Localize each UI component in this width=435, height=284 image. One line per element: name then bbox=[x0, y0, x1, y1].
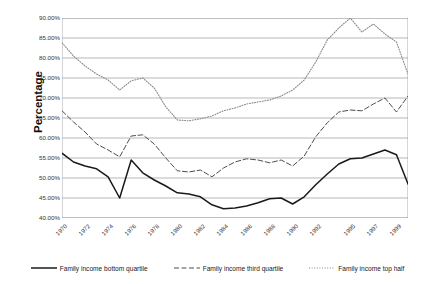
plot-svg bbox=[62, 18, 408, 218]
y-axis-tick-label: 65.00% bbox=[20, 115, 60, 121]
legend-swatch-solid-icon bbox=[31, 264, 57, 272]
y-axis-tick-label: 55.00% bbox=[20, 155, 60, 161]
y-axis-tick-label: 50.00% bbox=[20, 175, 60, 181]
y-axis-tick-label: 40.00% bbox=[20, 215, 60, 221]
legend-item[interactable]: Family income top half bbox=[309, 264, 404, 272]
legend-label: Family income bottom quartile bbox=[60, 265, 148, 272]
legend-label: Family income top half bbox=[338, 265, 404, 272]
y-axis-tick-label: 60.00% bbox=[20, 135, 60, 141]
x-axis: 1970197219741976197819801982198419861988… bbox=[62, 219, 408, 257]
y-axis-tick-label: 75.00% bbox=[20, 75, 60, 81]
legend-label: Family income third quartile bbox=[203, 265, 284, 272]
y-axis-tick-label: 45.00% bbox=[20, 195, 60, 201]
chart-legend: Family income bottom quartileFamily inco… bbox=[0, 258, 435, 278]
legend-item[interactable]: Family income third quartile bbox=[174, 264, 284, 272]
line-chart: Percentage 90.00%85.00%80.00%75.00%70.00… bbox=[0, 0, 435, 284]
y-axis-tick-label: 80.00% bbox=[20, 55, 60, 61]
y-axis-tick-label: 85.00% bbox=[20, 35, 60, 41]
plot-area bbox=[62, 18, 408, 218]
legend-swatch-dashed-icon bbox=[174, 264, 200, 272]
y-axis-tick-label: 70.00% bbox=[20, 95, 60, 101]
y-axis-tick-label: 90.00% bbox=[20, 15, 60, 21]
legend-item[interactable]: Family income bottom quartile bbox=[31, 264, 148, 272]
legend-swatch-dotted-icon bbox=[309, 264, 335, 272]
